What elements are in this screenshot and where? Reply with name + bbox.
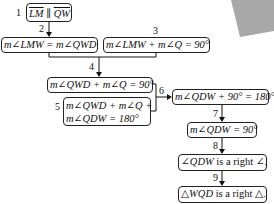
statement-box-6: m∠QDW + 90° = 180° bbox=[172, 89, 269, 105]
statement-box-4: m∠QWD + m∠Q = 90° bbox=[47, 77, 153, 93]
step-number-4: 4 bbox=[89, 62, 94, 72]
statement-box-9: △WQD is a right △. bbox=[178, 186, 267, 203]
step-number-5: 5 bbox=[55, 102, 60, 112]
statement-box-7: m∠QDW = 90° bbox=[187, 122, 257, 138]
statement-box-3: m∠LMW + m∠Q = 90° bbox=[103, 37, 210, 53]
statement-box-1: LM ∥ QW bbox=[26, 3, 72, 22]
gray-page-corner bbox=[231, 0, 274, 37]
step-number-6: 6 bbox=[159, 86, 164, 96]
step-number-3: 3 bbox=[153, 26, 158, 36]
statement-box-8: ∠QDW is a right ∠. bbox=[178, 154, 267, 171]
step-number-7: 7 bbox=[213, 109, 218, 119]
step-number-8: 8 bbox=[213, 141, 218, 151]
step-number-1: 1 bbox=[16, 8, 21, 18]
line-qw: QW bbox=[54, 8, 70, 19]
statement-box-2: m∠LMW = m∠QWD bbox=[1, 37, 98, 53]
line-lm: LM bbox=[29, 8, 44, 19]
statement-box-5: m∠QWD + m∠Q + m∠QDW = 180° bbox=[63, 97, 151, 126]
step-number-2: 2 bbox=[39, 24, 44, 34]
step-number-9: 9 bbox=[213, 173, 218, 183]
